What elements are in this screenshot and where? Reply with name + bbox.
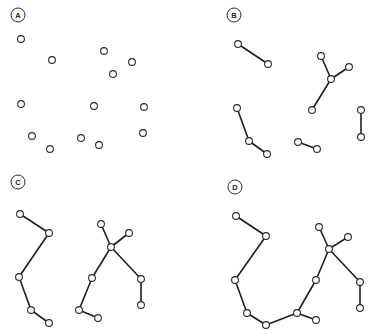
- panel-label: C: [15, 178, 21, 187]
- node: [265, 61, 272, 68]
- node: [244, 310, 251, 317]
- node: [17, 211, 24, 218]
- node: [96, 142, 103, 149]
- edge: [297, 280, 316, 313]
- node: [129, 59, 136, 66]
- node: [314, 146, 321, 153]
- edge: [19, 233, 49, 277]
- node: [326, 246, 333, 253]
- node: [263, 233, 270, 240]
- node: [47, 146, 54, 153]
- edge: [20, 214, 49, 233]
- node: [263, 322, 270, 329]
- node: [233, 213, 240, 220]
- node: [313, 277, 320, 284]
- node: [358, 134, 365, 141]
- node: [126, 230, 133, 237]
- node: [89, 275, 96, 282]
- edge: [266, 313, 297, 325]
- node: [234, 105, 241, 112]
- node: [232, 277, 239, 284]
- edge: [329, 249, 360, 282]
- node: [138, 302, 145, 309]
- node: [313, 317, 320, 324]
- node: [16, 274, 23, 281]
- node: [101, 48, 108, 55]
- edge: [236, 216, 266, 236]
- node: [346, 64, 353, 71]
- panel-d: D: [228, 180, 363, 328]
- node: [28, 307, 35, 314]
- node: [246, 138, 253, 145]
- node: [108, 244, 115, 251]
- node: [357, 279, 364, 286]
- edge: [312, 79, 331, 110]
- node: [91, 103, 98, 110]
- node: [95, 315, 102, 322]
- panel-c: C: [11, 175, 144, 326]
- node: [29, 133, 36, 140]
- node: [76, 307, 83, 314]
- node: [357, 305, 364, 312]
- panel-a: A: [11, 8, 147, 152]
- edge: [316, 249, 329, 280]
- minimum-spanning-tree-diagram: A B C D: [0, 0, 376, 334]
- node: [316, 224, 323, 231]
- node: [294, 310, 301, 317]
- node: [18, 36, 25, 43]
- node: [138, 276, 145, 283]
- node: [318, 53, 325, 60]
- edge: [235, 280, 247, 313]
- node: [345, 234, 352, 241]
- node: [295, 139, 302, 146]
- node: [141, 104, 148, 111]
- edge: [237, 108, 249, 141]
- edge: [19, 277, 31, 310]
- node: [46, 320, 53, 327]
- node: [46, 230, 53, 237]
- node: [110, 71, 117, 78]
- panel-b: B: [227, 8, 364, 157]
- node: [358, 107, 365, 114]
- edge: [92, 247, 111, 278]
- edge: [79, 278, 92, 310]
- edge: [235, 236, 266, 280]
- panel-label: A: [15, 11, 21, 20]
- node: [328, 76, 335, 83]
- node: [309, 107, 316, 114]
- node: [235, 41, 242, 48]
- edge: [238, 44, 268, 64]
- node: [18, 101, 25, 108]
- node: [49, 57, 56, 64]
- node: [140, 130, 147, 137]
- edge: [111, 247, 141, 279]
- node: [264, 151, 271, 158]
- panel-label: D: [232, 183, 238, 192]
- node: [98, 221, 105, 228]
- panel-label: B: [231, 11, 237, 20]
- node: [78, 135, 85, 142]
